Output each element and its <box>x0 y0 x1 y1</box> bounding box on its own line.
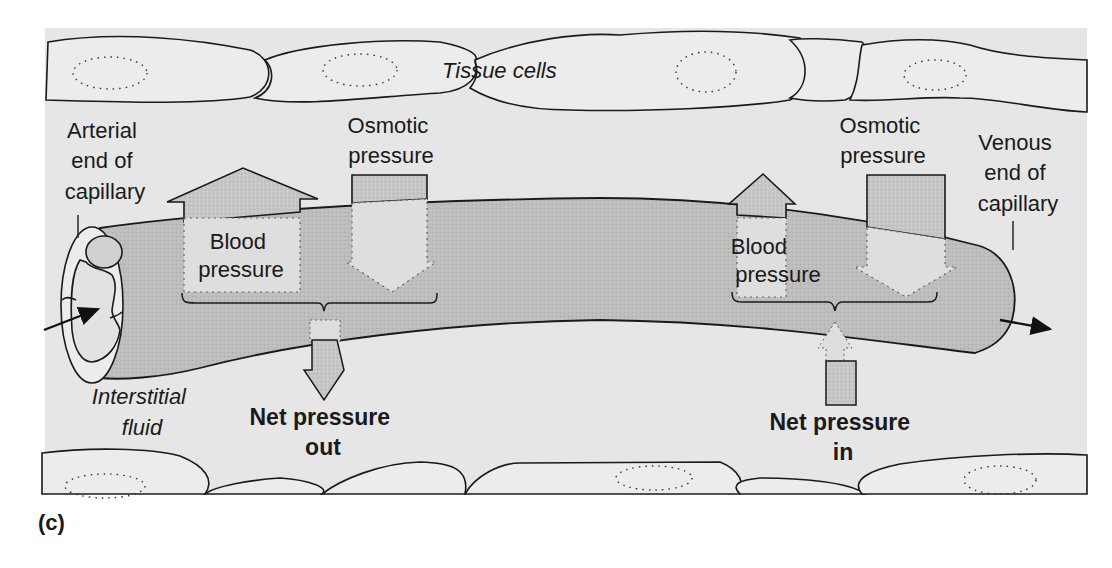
tissue-cells-label: Tissue cells <box>442 58 557 83</box>
figure-caption: (c) <box>38 510 65 535</box>
capillary-cross-section <box>61 227 123 383</box>
capillary-pressure-diagram: Tissue cells Blood pressure <box>0 0 1112 568</box>
venous-end-label: Venous end of capillary <box>978 130 1059 216</box>
arterial-end-label: Arterial end of capillary <box>65 118 146 204</box>
